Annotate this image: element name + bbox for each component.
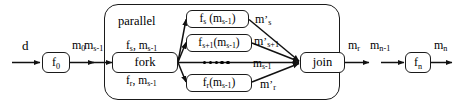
- label-branch-top-output: m’s: [255, 13, 271, 25]
- node-branch-bottom-label: fr(ms-1): [203, 77, 236, 89]
- label-join-output: mr: [348, 39, 360, 51]
- label-branch-top-input: fs, ms-1: [126, 40, 157, 52]
- label-branch-bottom-output: m’r: [260, 78, 276, 90]
- label-branch-second-output: m’s+1: [254, 35, 279, 47]
- node-branch-second-label: fs+1(ms-1): [198, 37, 239, 49]
- node-branch-top-label: fs (ms-1): [200, 13, 236, 25]
- input-data-label: d: [22, 39, 29, 52]
- branch-middle-ellipsis: [203, 61, 230, 64]
- label-output-input: mn-1: [370, 39, 390, 51]
- node-branch-bottom[interactable]: fr(ms-1): [186, 74, 252, 92]
- parallel-container-label: parallel: [118, 15, 155, 28]
- node-f0[interactable]: f0: [42, 52, 70, 73]
- node-fork-label: fork: [135, 56, 156, 69]
- label-mn: mn: [434, 39, 447, 51]
- label-branch-bottom-input: fr, ms-1: [126, 75, 157, 87]
- node-join[interactable]: join: [300, 52, 345, 73]
- node-fork[interactable]: fork: [112, 52, 178, 73]
- label-parallel-input: ms-1: [84, 39, 103, 51]
- label-branch-middle-output: ms-1: [253, 58, 272, 70]
- node-branch-second[interactable]: fs+1(ms-1): [186, 34, 252, 52]
- node-f0-label: f0: [52, 56, 60, 68]
- node-join-label: join: [313, 56, 332, 69]
- node-fn[interactable]: fn: [405, 52, 431, 73]
- diagram-canvas: d f0 m0 parallel ms-1 fork fs, ms-1 fs (…: [0, 0, 459, 104]
- node-fn-label: fn: [414, 56, 422, 68]
- node-branch-top[interactable]: fs (ms-1): [186, 10, 249, 28]
